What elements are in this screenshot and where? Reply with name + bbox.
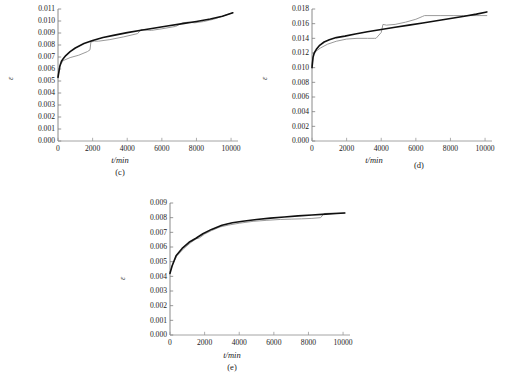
y-tick-label: 0.006: [22, 64, 55, 73]
y-tick-label: 0.004: [276, 107, 309, 116]
y-tick-label: 0.007: [134, 228, 167, 237]
x-tick-label: 10000: [465, 144, 505, 153]
chart-panel-c: ε 0.0000.0010.0020.0030.0040.0050.0060.0…: [0, 0, 254, 185]
y-tick-label: 0.008: [22, 40, 55, 49]
y-tick-label: 0.009: [134, 198, 167, 207]
y-tick-label: 0.009: [22, 28, 55, 37]
y-tick-label: 0.005: [22, 76, 55, 85]
chart-panel-e: ε 0.0000.0010.0020.0030.0040.0050.0060.0…: [110, 192, 364, 383]
y-tick-label: 0.006: [134, 242, 167, 251]
x-tick-label: 10000: [211, 144, 251, 153]
series-line-fitted: [170, 213, 345, 273]
x-tick-label: 10000: [323, 338, 363, 347]
y-tick-label: 0.006: [276, 92, 309, 101]
y-tick-label: 0.010: [22, 16, 55, 25]
y-tick-label: 0.008: [276, 78, 309, 87]
y-tick-label: 0.007: [22, 52, 55, 61]
y-tick-label: 0.010: [276, 63, 309, 72]
panel-label-c: (c): [80, 167, 160, 177]
y-tick-label: 0.014: [276, 34, 309, 43]
y-tick-label: 0.012: [276, 48, 309, 57]
x-axis-label-c: t/min: [80, 155, 160, 165]
y-tick-label: 0.002: [22, 112, 55, 121]
y-tick-label: 0.001: [134, 316, 167, 325]
y-tick-label: 0.018: [276, 4, 309, 13]
y-tick-label: 0.016: [276, 19, 309, 28]
creep-curves-figure: ε 0.0000.0010.0020.0030.0040.0050.0060.0…: [0, 0, 508, 383]
series-line-experimental: [58, 13, 233, 76]
x-axis-label-e: t/min: [192, 350, 272, 360]
y-axis-label-e: ε: [118, 277, 127, 280]
y-tick-label: 0.004: [22, 88, 55, 97]
y-tick-label: 0.011: [22, 4, 55, 13]
series-line-experimental: [312, 16, 487, 66]
series-line-fitted: [312, 12, 487, 68]
series-line-fitted: [58, 13, 233, 78]
panel-label-d: (d): [379, 160, 459, 170]
y-axis-label-c: ε: [6, 77, 15, 80]
y-axis-label-d: ε: [260, 77, 269, 80]
y-tick-label: 0.008: [134, 213, 167, 222]
y-tick-label: 0.001: [22, 124, 55, 133]
series-line-experimental: [170, 213, 345, 272]
y-tick-label: 0.003: [134, 286, 167, 295]
y-tick-label: 0.003: [22, 100, 55, 109]
panel-label-e: (e): [192, 362, 272, 372]
y-tick-label: 0.002: [134, 301, 167, 310]
y-tick-label: 0.005: [134, 257, 167, 266]
chart-panel-d: ε 0.0000.0020.0040.0060.0080.0100.0120.0…: [254, 0, 508, 185]
y-tick-label: 0.004: [134, 272, 167, 281]
y-tick-label: 0.002: [276, 122, 309, 131]
